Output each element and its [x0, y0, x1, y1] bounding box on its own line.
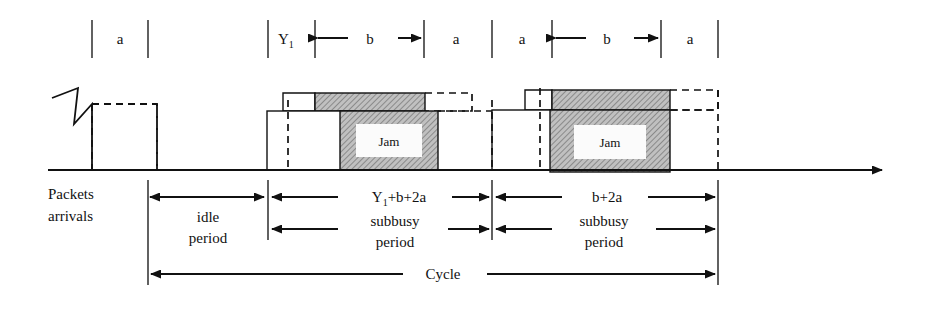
- measure-row-durations: Y1+b+2a b+2a: [150, 189, 715, 208]
- dur1-rest: +b+2a: [388, 189, 427, 205]
- arrival-zigzag-icon: [52, 88, 92, 170]
- cycle-label: Cycle: [426, 266, 461, 282]
- idle-frame-left: [92, 104, 157, 170]
- subbusy2-line1: subbusy: [579, 213, 629, 229]
- measure-row-cycle: Cycle: [151, 266, 715, 282]
- scale-label-a-4: a: [687, 31, 694, 47]
- subbusy1-line1: subbusy: [370, 213, 420, 229]
- idle-period-line1: idle: [197, 209, 220, 225]
- burst-2: Jam: [492, 88, 718, 172]
- top-scale-labels: a Y1 b a a b a: [117, 31, 694, 50]
- burst1-main-dashed-ext: [438, 111, 492, 170]
- packets-arrivals-line2: arrivals: [48, 208, 93, 224]
- duration-2-label: b+2a: [592, 189, 622, 205]
- idle-dashed-frame: [92, 104, 157, 170]
- burst2-main-dashed-ext: [670, 90, 718, 170]
- burst2-upper-white-box: [525, 90, 552, 110]
- packet-arrival-symbol: [52, 88, 92, 170]
- scale-label-b-1: b: [366, 31, 374, 47]
- burst2-upper-dashed-ext: [670, 90, 718, 110]
- scale-label-y1: Y1: [278, 31, 294, 50]
- subbusy2-line2: period: [585, 234, 624, 250]
- scale-label-a-1: a: [117, 31, 124, 47]
- burst1-jam-label: Jam: [379, 134, 400, 149]
- burst1-upper-hatched-bar: [315, 93, 425, 111]
- burst2-jam-label: Jam: [600, 135, 621, 150]
- subbusy1-line2: period: [376, 234, 415, 250]
- scale-label-b-2: b: [603, 31, 611, 47]
- timing-diagram: a Y1 b a a b a: [0, 0, 930, 318]
- scale-label-a-2: a: [453, 31, 460, 47]
- burst1-upper-dashed-ext: [425, 93, 472, 111]
- burst2-upper-hatched-bar: [552, 90, 670, 110]
- dur1-base: Y: [372, 189, 383, 205]
- diagram-canvas: a Y1 b a a b a: [0, 0, 930, 318]
- packets-arrivals-line1: Packets: [48, 186, 94, 202]
- packets-arrivals-caption: Packets arrivals: [48, 186, 94, 224]
- scale-label-a-3: a: [519, 31, 526, 47]
- y1-base: Y: [278, 31, 289, 47]
- y1-sub: 1: [289, 39, 294, 50]
- burst-1: Jam: [267, 93, 492, 171]
- idle-period-line2: period: [189, 230, 228, 246]
- duration-1-label: Y1+b+2a: [372, 189, 427, 208]
